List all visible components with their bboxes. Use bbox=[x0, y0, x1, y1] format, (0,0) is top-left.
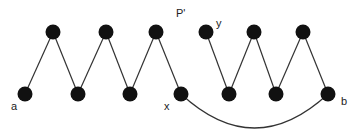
node-t4 bbox=[247, 25, 262, 40]
edge bbox=[206, 32, 229, 94]
edge bbox=[276, 32, 303, 94]
node-a bbox=[18, 87, 33, 102]
edge bbox=[25, 32, 53, 94]
edge bbox=[303, 32, 328, 94]
edge bbox=[254, 32, 276, 94]
node-t5 bbox=[296, 25, 311, 40]
graph-diagram bbox=[0, 0, 358, 137]
edge bbox=[106, 32, 130, 94]
node-b2 bbox=[123, 87, 138, 102]
node-label-b: b bbox=[341, 96, 347, 107]
node-t3 bbox=[149, 25, 164, 40]
edge bbox=[78, 32, 106, 94]
edge bbox=[53, 32, 78, 94]
node-label-y: y bbox=[216, 18, 222, 29]
node-b1 bbox=[71, 87, 86, 102]
edge bbox=[229, 32, 254, 94]
node-t1 bbox=[46, 25, 61, 40]
edge bbox=[130, 32, 156, 94]
curved-edge bbox=[181, 94, 328, 128]
node-b4 bbox=[269, 87, 284, 102]
node-b3 bbox=[222, 87, 237, 102]
node-x bbox=[174, 87, 189, 102]
title-label-p-prime: P' bbox=[176, 8, 185, 19]
node-label-a: a bbox=[11, 101, 17, 112]
edge bbox=[156, 32, 181, 94]
node-t2 bbox=[99, 25, 114, 40]
node-label-x: x bbox=[164, 101, 170, 112]
node-b bbox=[321, 87, 336, 102]
node-y bbox=[199, 25, 214, 40]
